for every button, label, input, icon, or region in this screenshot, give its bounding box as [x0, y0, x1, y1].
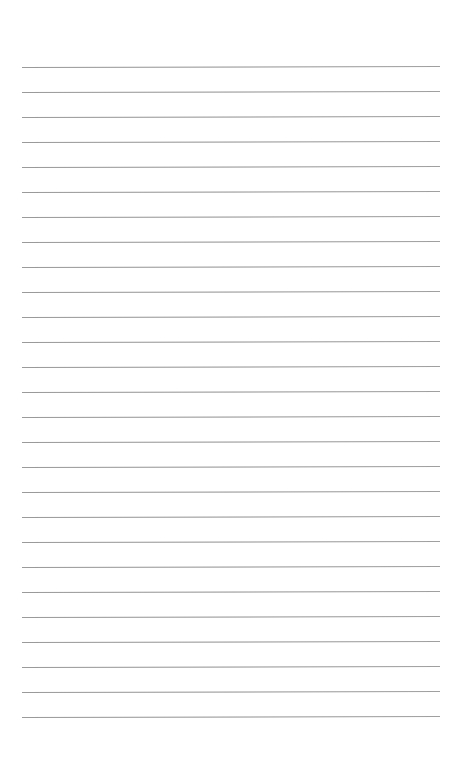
rule-line: [22, 191, 440, 193]
rule-line: [22, 141, 440, 143]
rule-line: [22, 516, 440, 518]
rule-line: [22, 166, 440, 168]
rule-line: [22, 716, 440, 718]
rule-line: [22, 541, 440, 543]
rule-line: [22, 266, 440, 268]
rule-line: [22, 691, 440, 693]
lined-paper-page: [0, 0, 467, 773]
rule-line: [22, 416, 440, 418]
rule-line: [22, 566, 440, 568]
rule-line: [22, 366, 440, 368]
rule-line: [22, 616, 440, 618]
rule-line: [22, 441, 440, 443]
rule-line: [22, 666, 440, 668]
rule-line: [22, 291, 440, 293]
rule-line: [22, 241, 440, 243]
rule-line: [22, 591, 440, 593]
rule-line: [22, 66, 440, 68]
rule-line: [22, 466, 440, 468]
rule-line: [22, 91, 440, 93]
rule-line: [22, 491, 440, 493]
rule-line: [22, 641, 440, 643]
rule-line: [22, 391, 440, 393]
rule-line: [22, 116, 440, 118]
rule-line: [22, 341, 440, 343]
rule-line: [22, 316, 440, 318]
rule-line: [22, 216, 440, 218]
